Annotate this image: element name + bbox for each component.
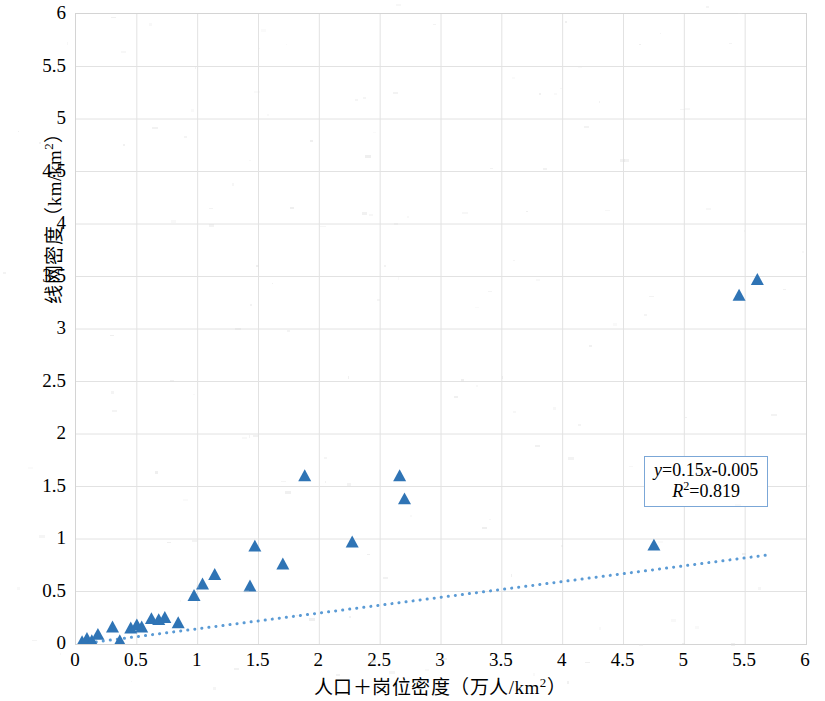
scan-noise-speck (249, 435, 250, 438)
scan-noise-speck (259, 48, 260, 49)
x-axis-tick-label: 1.5 (228, 650, 288, 670)
scan-noise-speck (410, 515, 412, 517)
x-axis-title-close: ） (547, 677, 567, 698)
x-axis-tick-label: 0 (45, 650, 105, 670)
scan-noise-speck (309, 618, 315, 621)
scan-noise-speck (706, 208, 711, 210)
scan-noise-speck (18, 131, 19, 132)
scan-noise-speck (196, 585, 199, 588)
scan-noise-speck (371, 660, 376, 663)
x-axis-title-text: 人口＋岗位密度（万人/km (314, 677, 540, 698)
scan-noise-speck (685, 108, 690, 110)
scan-noise-speck (123, 144, 125, 146)
scan-noise-speck (287, 330, 290, 332)
scan-noise-speck (32, 640, 37, 641)
scan-noise-speck (3, 272, 6, 274)
scan-noise-speck (363, 97, 366, 99)
scan-noise-speck (771, 414, 777, 416)
scan-noise-speck (393, 92, 398, 94)
scan-noise-speck (476, 385, 478, 387)
scan-noise-speck (229, 623, 230, 624)
scan-noise-speck (536, 279, 540, 281)
x-axis-tick-label: 3.5 (471, 650, 531, 670)
x-axis-tick-label: 0.5 (106, 650, 166, 670)
scan-noise-speck (28, 467, 33, 469)
scan-noise-speck (184, 136, 187, 138)
scan-noise-speck (599, 101, 600, 103)
scan-noise-speck (433, 24, 436, 25)
scan-noise-speck (660, 33, 661, 34)
scan-noise-speck (112, 410, 117, 412)
x-axis-tick-labels: 00.511.522.533.544.555.56 (0, 0, 825, 701)
scan-noise-speck (738, 13, 742, 14)
scan-noise-speck (644, 314, 647, 316)
scan-noise-speck (62, 114, 66, 117)
x-axis-tick-label: 3 (410, 650, 470, 670)
scan-noise-speck (149, 23, 152, 26)
scan-noise-speck (365, 155, 371, 158)
scan-noise-speck (584, 126, 589, 128)
scan-noise-speck (624, 159, 629, 162)
scan-noise-speck (425, 669, 429, 671)
scan-noise-speck (325, 481, 326, 483)
scan-noise-speck (373, 132, 376, 133)
scan-noise-speck (502, 376, 503, 379)
scan-noise-speck (256, 265, 259, 267)
scan-noise-speck (234, 668, 239, 670)
scan-noise-speck (349, 616, 351, 618)
scan-noise-speck (535, 445, 540, 447)
scan-noise-speck (324, 457, 327, 459)
scan-noise-speck (192, 540, 197, 542)
scan-noise-speck (808, 485, 810, 487)
scan-noise-speck (731, 643, 735, 646)
scan-noise-speck (758, 587, 761, 590)
scan-noise-speck (407, 216, 409, 218)
scan-noise-speck (261, 29, 266, 32)
scan-noise-speck (310, 140, 313, 142)
scan-noise-speck (802, 251, 804, 253)
scan-noise-speck (398, 277, 399, 280)
scan-noise-speck (513, 260, 515, 261)
scan-noise-speck (394, 223, 398, 225)
scan-noise-speck (235, 328, 241, 330)
scan-noise-speck (613, 323, 617, 326)
scan-noise-speck (362, 212, 367, 215)
scan-noise-speck (629, 466, 633, 467)
scan-noise-speck (180, 600, 181, 602)
scan-noise-speck (543, 168, 547, 170)
scan-noise-speck (209, 208, 213, 209)
scan-noise-speck (281, 481, 286, 482)
scan-noise-speck (565, 21, 567, 23)
scan-noise-speck (39, 142, 41, 144)
scan-noise-speck (121, 51, 126, 53)
scan-noise-speck (560, 88, 562, 89)
scan-noise-speck (533, 673, 535, 676)
scan-noise-speck (285, 491, 291, 494)
scan-noise-speck (512, 77, 515, 79)
scan-noise-speck (254, 91, 260, 93)
scan-noise-speck (599, 627, 601, 630)
scan-noise-speck (384, 265, 386, 267)
scan-noise-speck (490, 168, 493, 169)
scan-noise-speck (367, 554, 370, 555)
scan-noise-speck (513, 411, 516, 413)
scan-noise-speck (377, 299, 380, 301)
scan-noise-speck (253, 435, 258, 437)
x-axis-tick-label: 5 (653, 650, 713, 670)
scan-noise-speck (639, 644, 643, 646)
x-axis-tick-label: 4.5 (593, 650, 653, 670)
scan-noise-speck (649, 296, 654, 297)
scan-noise-speck (110, 335, 114, 336)
equation-x-symbol: x (704, 460, 712, 480)
scan-noise-speck (461, 379, 464, 382)
scan-noise-speck (213, 687, 216, 690)
scan-noise-speck (639, 44, 641, 45)
scan-noise-speck (244, 590, 249, 593)
scan-noise-speck (462, 212, 468, 214)
scan-noise-speck (585, 662, 590, 663)
scan-noise-speck (170, 380, 174, 382)
scan-noise-speck (695, 626, 699, 629)
scan-noise-speck (296, 615, 298, 616)
scan-noise-speck (290, 207, 294, 209)
scan-noise-speck (511, 574, 512, 577)
